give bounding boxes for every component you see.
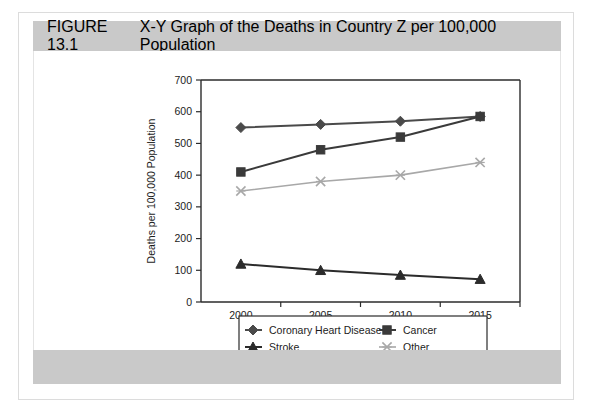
data-point (476, 158, 485, 167)
legend-marker-square-icon (383, 326, 391, 334)
y-tick-label: 600 (174, 105, 192, 117)
data-point (316, 177, 325, 186)
series-line (241, 116, 480, 172)
data-point (395, 116, 405, 126)
legend-item-cancer[interactable]: Cancer (379, 324, 437, 336)
figure-number: FIGURE 13.1 (47, 18, 140, 54)
series-line (241, 162, 480, 191)
figure-footer-bar (33, 350, 561, 384)
data-point (316, 119, 326, 129)
data-point (396, 171, 405, 180)
figure-title-bar: FIGURE 13.1 X-Y Graph of the Deaths in C… (33, 21, 561, 51)
figure-body: 01002003004005006007002000200520102015De… (33, 51, 561, 350)
line-chart: 01002003004005006007002000200520102015De… (34, 51, 562, 350)
series-stroke (236, 259, 485, 283)
series-coronary-heart-disease (236, 111, 485, 132)
data-point (316, 146, 324, 154)
figure-caption: X-Y Graph of the Deaths in Country Z per… (140, 18, 561, 54)
y-tick-label: 400 (174, 169, 192, 181)
legend-label: Stroke (269, 341, 300, 350)
data-point (237, 168, 245, 176)
data-point (476, 112, 484, 120)
data-point (396, 133, 404, 141)
y-tick-label: 500 (174, 137, 192, 149)
series-line (241, 264, 480, 279)
figure-container: FIGURE 13.1 X-Y Graph of the Deaths in C… (18, 12, 574, 400)
legend-label: Coronary Heart Disease (269, 324, 382, 336)
legend-label: Other (403, 341, 430, 350)
y-tick-label: 100 (174, 264, 192, 276)
y-axis-title: Deaths per 100,000 Population (145, 118, 157, 263)
data-point (236, 123, 246, 133)
y-tick-label: 200 (174, 232, 192, 244)
legend-label: Cancer (403, 324, 437, 336)
y-tick-label: 300 (174, 200, 192, 212)
y-tick-label: 0 (186, 296, 192, 308)
chart-plot-area: 01002003004005006007002000200520102015De… (34, 51, 562, 350)
y-tick-label: 700 (174, 74, 192, 86)
legend-item-stroke[interactable]: Stroke (245, 341, 300, 350)
data-point (236, 186, 245, 195)
